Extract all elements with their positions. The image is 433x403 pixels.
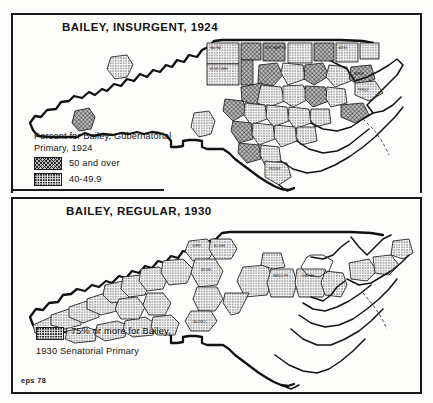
svg-text:WILKES: WILKES [201, 268, 212, 272]
svg-text:RANDOLPH: RANDOLPH [273, 274, 288, 278]
svg-text:SURRY: SURRY [192, 244, 202, 248]
svg-text:GATES: GATES [338, 46, 347, 50]
legend-label-40-49: 40-49.9 [69, 174, 102, 186]
legend-1930: 75% or more for Bailey, 1930 Senatorial … [36, 323, 236, 358]
svg-text:NORTHAMPTON: NORTHAMPTON [265, 46, 286, 50]
legend-swatch-dense-icon [34, 157, 62, 170]
svg-text:HALIFAX: HALIFAX [210, 46, 222, 50]
svg-text:BERTIE: BERTIE [354, 72, 364, 76]
svg-text:PERQUI: PERQUI [358, 88, 369, 92]
map-north-carolina-1930: SURRY ALLEGH WILKES CALDWELL RANDOLPH CH… [11, 197, 418, 390]
legend-label-50-and-over: 50 and over [69, 158, 120, 170]
legend-swatch-stipple-1930-icon [36, 327, 64, 340]
figure-plate: HALIFAX EDGECOMBE NORTHAMPTON GATES BERT… [0, 0, 433, 403]
svg-text:ALLEGH: ALLEGH [214, 244, 225, 248]
legend-entry-75-or-more: 75% or more for Bailey, [36, 326, 236, 340]
legend-label-1930-line2: 1930 Senatorial Primary [36, 346, 236, 358]
svg-text:PENDER: PENDER [269, 167, 280, 171]
legend-entry-40-49: 40-49.9 [34, 173, 224, 186]
legend-label-75-or-more: 75% or more for Bailey, [71, 326, 171, 338]
map-title-1930: BAILEY, REGULAR, 1930 [66, 205, 212, 217]
plate-mark: eps 78 [21, 376, 46, 385]
county-choropleth-1930: SURRY ALLEGH WILKES CALDWELL RANDOLPH CH… [11, 197, 418, 390]
legend-1924: Percent for Bailey, Gubernatorial Primar… [34, 131, 224, 186]
svg-text:EDGECOMBE: EDGECOMBE [210, 67, 228, 71]
legend-entry-50-and-over: 50 and over [34, 157, 224, 170]
map-title-1924: BAILEY, INSURGENT, 1924 [62, 21, 218, 33]
legend-heading-1924: Percent for Bailey, Gubernatorial Primar… [34, 131, 224, 154]
legend-swatch-stipple-icon [34, 173, 62, 186]
